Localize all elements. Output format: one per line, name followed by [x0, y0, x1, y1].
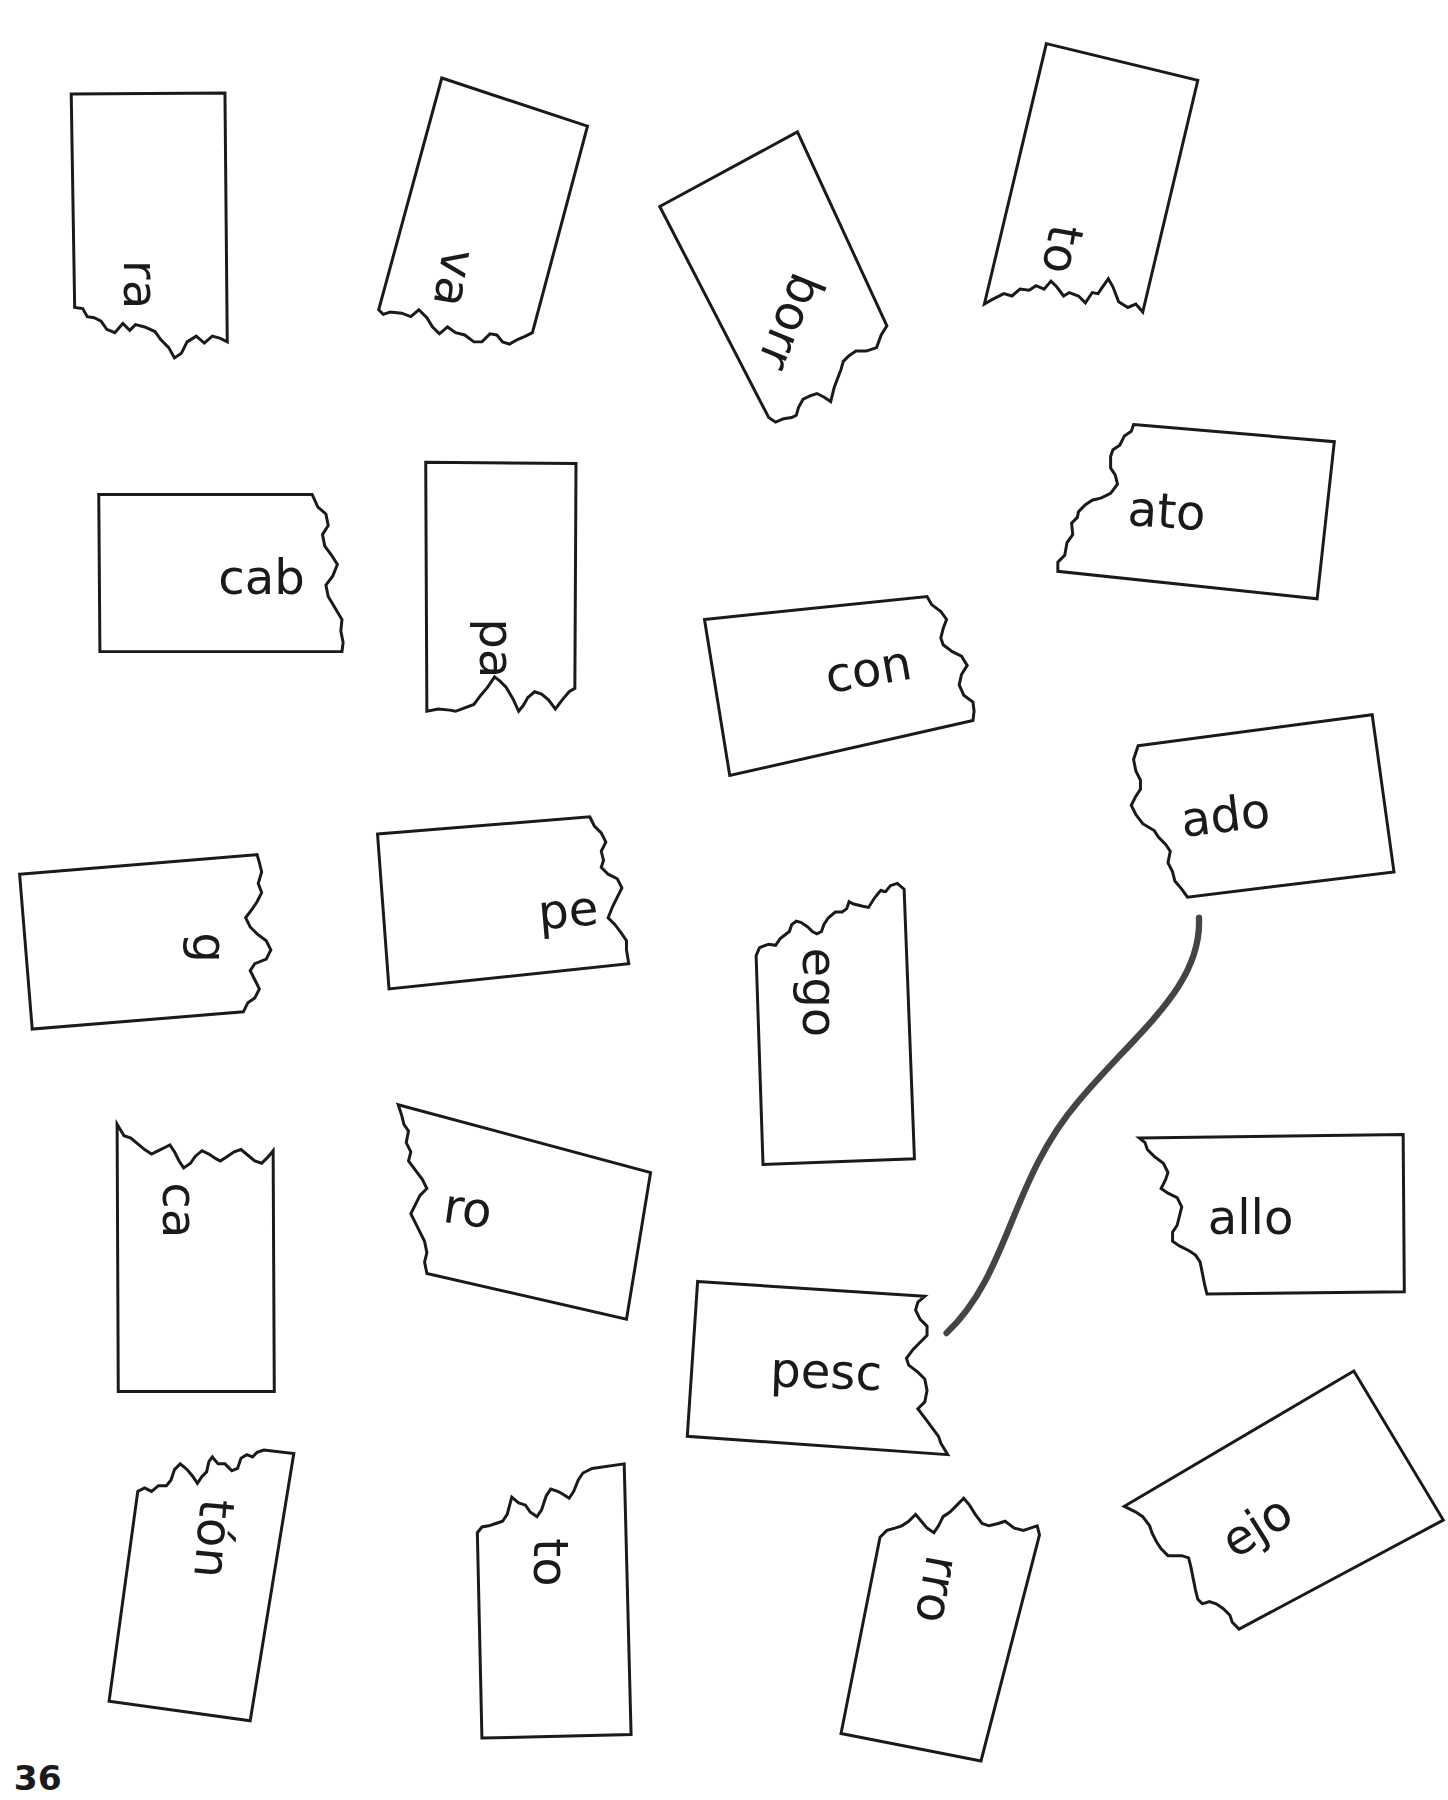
card-label: to [1031, 221, 1095, 278]
word-card-rro[interactable]: rro [841, 1498, 1039, 1761]
word-card-va[interactable]: va [379, 78, 588, 344]
card-label: ca [152, 1182, 208, 1238]
card-label: ro [440, 1177, 496, 1239]
card-label: ato [1126, 480, 1208, 541]
word-card-ado[interactable]: ado [1131, 715, 1394, 897]
word-card-ton[interactable]: tón [109, 1450, 294, 1721]
word-card-ro[interactable]: ro [398, 1105, 650, 1320]
word-card-borr[interactable]: borr [660, 132, 887, 422]
card-label: va [422, 245, 487, 312]
word-card-allo[interactable]: allo [1139, 1135, 1404, 1294]
page-number: 36 [14, 1758, 62, 1798]
card-label: tón [183, 1497, 246, 1580]
card-label: pe [536, 879, 601, 940]
card-label: ado [1177, 781, 1273, 847]
card-label: pa [469, 618, 525, 678]
card-label: ra [113, 260, 169, 309]
word-card-pesc[interactable]: pesc [687, 1281, 947, 1454]
card-label: g [182, 932, 238, 963]
card-label: ego [792, 948, 848, 1038]
word-card-to-bottom[interactable]: to [477, 1464, 631, 1738]
card-label: cab [218, 549, 305, 605]
word-card-ejo[interactable]: ejo [1124, 1371, 1443, 1629]
word-card-g[interactable]: g [20, 855, 271, 1029]
word-card-ra[interactable]: ra [71, 93, 227, 358]
word-card-ato[interactable]: ato [1058, 424, 1334, 598]
word-card-ego[interactable]: ego [756, 883, 914, 1164]
drawn-match-line [947, 918, 1200, 1333]
word-card-pe[interactable]: pe [378, 817, 629, 989]
word-card-pa[interactable]: pa [426, 462, 576, 711]
card-label: pesc [769, 1341, 883, 1401]
card-label: rro [905, 1552, 972, 1628]
card-label: allo [1208, 1189, 1294, 1245]
word-card-to-top[interactable]: to [984, 44, 1197, 312]
word-card-ca[interactable]: ca [117, 1124, 274, 1391]
worksheet-page: ra va borr to cab pa ato con ado [0, 0, 1448, 1800]
word-card-con[interactable]: con [704, 597, 974, 776]
word-card-cab[interactable]: cab [99, 494, 343, 651]
card-label: to [523, 1538, 579, 1586]
